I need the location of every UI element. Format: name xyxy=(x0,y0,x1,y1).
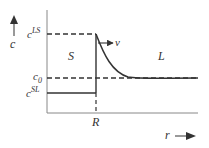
x-direction-arrow-icon xyxy=(175,132,196,140)
c0-label: c0 xyxy=(33,70,42,85)
y-direction-arrow-icon xyxy=(10,15,18,36)
liquid-region-label: L xyxy=(157,49,165,63)
y-axis-label: c xyxy=(10,37,16,51)
c-sl-label: cSL xyxy=(26,85,40,99)
solid-region-label: S xyxy=(68,49,74,63)
c-ls-label: cLS xyxy=(27,26,40,40)
concentration-profile-diagram: c cLS c0 cSL R v S L r xyxy=(0,0,209,148)
x-axis-label: r xyxy=(165,128,170,142)
interface-R-label: R xyxy=(91,115,100,129)
concentration-decay-curve xyxy=(96,34,198,78)
velocity-label: v xyxy=(115,36,120,48)
